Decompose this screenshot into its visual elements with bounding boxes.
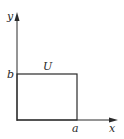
b-label: b xyxy=(7,68,14,81)
x-axis-label: x xyxy=(109,122,116,135)
region-label: U xyxy=(43,60,53,73)
region-rectangle xyxy=(17,74,77,120)
a-label: a xyxy=(72,122,79,135)
y-axis-label: y xyxy=(6,10,14,23)
diagram-canvas: y b U a x xyxy=(0,0,124,139)
y-axis-arrow-icon xyxy=(15,12,20,21)
